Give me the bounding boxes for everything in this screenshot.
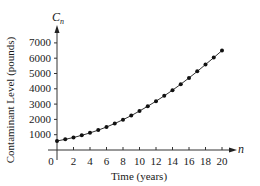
x-tick-label: 14 [167,155,179,167]
data-point [72,135,76,139]
data-point [204,62,208,66]
x-axis-variable: n [238,142,244,156]
x-tick-label: 8 [120,155,126,167]
y-tick-label: 6000 [29,52,52,64]
y-axis-label: Contaminant Level (pounds) [4,36,17,163]
y-var-subscript: n [60,17,64,26]
x-tick-label: 12 [151,155,162,167]
x-tick-label: 6 [104,155,110,167]
x-tick-label: 18 [200,155,212,167]
data-point [88,131,92,135]
data-point [80,133,84,137]
y-axis-ticks: 1000200030004000500060007000 [29,36,57,140]
y-axis-variable: Cn [52,10,64,26]
x-tick-label: 20 [217,155,229,167]
data-point [195,69,199,73]
data-point [105,125,109,129]
data-series [55,49,224,143]
x-axis-arrow-icon [229,148,237,153]
y-tick-label: 4000 [29,82,52,94]
data-point [113,122,117,126]
x-tick-label: 0 [48,155,54,167]
y-tick-label: 3000 [29,98,52,110]
series-line [57,51,222,142]
y-tick-label: 5000 [29,67,52,79]
data-point [220,49,224,53]
y-tick-label: 2000 [29,113,52,125]
data-point [138,109,142,113]
y-axis-arrow-icon [55,25,60,33]
data-point [96,128,100,132]
x-tick-label: 2 [71,155,77,167]
data-point [55,139,59,143]
contaminant-level-chart: 1000200030004000500060007000 02468101214… [0,0,260,186]
data-point [162,94,166,98]
axes [48,25,237,160]
x-axis-label: Time (years) [111,170,167,183]
data-point [171,88,175,92]
x-tick-label: 4 [87,155,93,167]
data-point [179,82,183,86]
data-point [63,137,67,141]
chart-container: 1000200030004000500060007000 02468101214… [0,0,260,186]
y-tick-label: 1000 [29,128,52,140]
data-point [146,104,150,108]
data-point [121,118,125,122]
data-point [154,99,158,103]
data-point [212,56,216,60]
data-point [129,114,133,118]
x-tick-label: 16 [184,155,196,167]
data-point [187,76,191,80]
x-tick-label: 10 [134,155,146,167]
y-tick-label: 7000 [29,36,52,48]
